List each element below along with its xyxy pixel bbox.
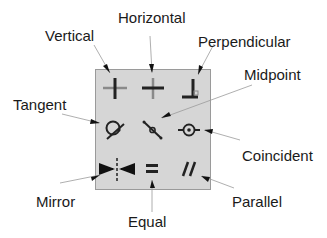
equal-icon[interactable]	[146, 164, 158, 173]
label-perpendicular: Perpendicular	[198, 34, 291, 49]
perpendicular-icon[interactable]	[182, 79, 198, 97]
mirror-icon[interactable]	[105, 158, 128, 181]
vertical-icon[interactable]	[103, 78, 127, 99]
parallel-icon[interactable]	[183, 162, 195, 176]
label-coincident: Coincident	[242, 148, 313, 163]
label-tangent: Tangent	[13, 97, 66, 112]
horizontal-icon[interactable]	[142, 78, 164, 99]
label-vertical: Vertical	[45, 28, 94, 43]
midpoint-icon[interactable]	[143, 121, 163, 140]
label-parallel: Parallel	[232, 194, 282, 209]
leader-lines	[60, 36, 252, 212]
tangent-icon[interactable]	[107, 122, 125, 140]
label-mirror: Mirror	[36, 194, 75, 209]
label-midpoint: Midpoint	[244, 67, 301, 82]
label-horizontal: Horizontal	[118, 10, 186, 25]
label-equal: Equal	[128, 214, 166, 229]
coincident-icon[interactable]	[178, 125, 200, 136]
